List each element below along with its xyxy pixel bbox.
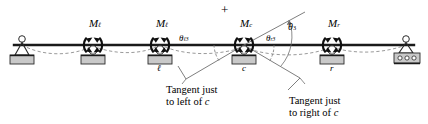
roller-support-a xyxy=(81,38,105,65)
theta-right-label: θr3 xyxy=(266,33,275,43)
rocker-support-right xyxy=(394,36,420,64)
roller-support-c xyxy=(232,38,256,65)
point-label-c: c xyxy=(242,63,246,73)
tangent-right-caption: Tangent just to right of c xyxy=(289,95,340,118)
moment-label-l: Mℓ xyxy=(156,17,168,29)
roller-support-r xyxy=(320,38,344,65)
tangent-left-caption: Tangent just to left of c xyxy=(166,84,217,107)
moment-label-c: Mc xyxy=(240,17,252,29)
beam-deflection-figure: Mℓ Mℓ + Mc Mr θℓ3 θr3 θ3 ℓ c r Tangent j… xyxy=(0,0,428,124)
pin-support-left xyxy=(10,36,34,64)
moment-label-r: Mr xyxy=(328,17,340,29)
point-label-r: r xyxy=(330,63,334,73)
plus-sign-label: + xyxy=(221,2,228,18)
point-label-l: ℓ xyxy=(157,63,161,73)
tangent-right-of-c-line xyxy=(244,45,300,90)
roller-support-l xyxy=(148,38,172,65)
theta-left-label: θℓ3 xyxy=(179,33,189,43)
moment-label-a: Mℓ xyxy=(89,17,101,29)
theta-total-label: θ3 xyxy=(288,21,296,32)
